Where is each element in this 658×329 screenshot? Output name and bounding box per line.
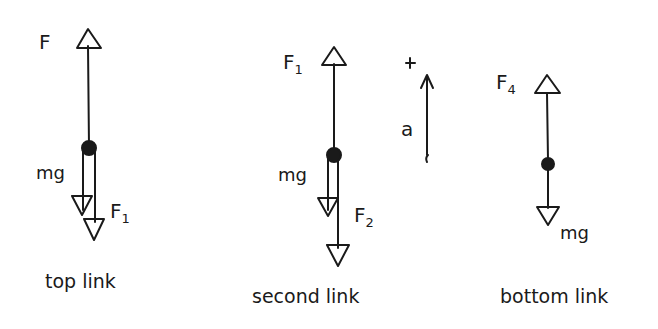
force-label-f4: F4: [496, 72, 516, 92]
acceleration-indicator: [406, 58, 433, 162]
caption-bottom-link: bottom link: [500, 287, 608, 306]
label-text: F: [283, 50, 295, 74]
second-link-diagram: [318, 47, 349, 266]
mass-dot-icon: [542, 158, 554, 170]
label-subscript: 4: [508, 82, 516, 97]
caption-second-link: second link: [252, 287, 359, 306]
force-f-line: [88, 46, 89, 147]
arrowhead-up-icon: [77, 29, 101, 48]
force-label-mg: mg: [278, 166, 307, 184]
arrowhead-down-icon: [84, 219, 104, 240]
label-text: mg: [560, 222, 589, 243]
mass-dot-icon: [82, 141, 96, 155]
acceleration-arrow-icon: [426, 76, 428, 162]
force-label-mg: mg: [560, 224, 589, 242]
mass-dot-icon: [327, 148, 341, 162]
label-subscript: 2: [366, 215, 374, 230]
arrowhead-up-icon: [535, 75, 560, 93]
force-label-f1: F1: [283, 52, 303, 72]
label-text: F: [110, 199, 122, 223]
bottom-link-diagram: [535, 75, 560, 225]
force-label-mg: mg: [36, 164, 65, 182]
label-text: F: [496, 70, 508, 94]
force-label-f: F: [39, 32, 51, 52]
top-link-diagram: [72, 29, 104, 240]
caption-top-link: top link: [45, 272, 116, 291]
label-subscript: 1: [122, 211, 130, 226]
force-f4-line: [547, 93, 548, 160]
label-subscript: 1: [295, 62, 303, 77]
label-text: mg: [278, 164, 307, 185]
acceleration-label: a: [401, 119, 413, 139]
label-text: F: [354, 203, 366, 227]
arrowhead-up-icon: [322, 47, 346, 65]
label-text: F: [39, 30, 51, 54]
force-label-f2: F2: [354, 205, 374, 225]
force-label-f1: F1: [110, 201, 130, 221]
arrowhead-down-icon: [537, 207, 559, 225]
label-text: mg: [36, 162, 65, 183]
